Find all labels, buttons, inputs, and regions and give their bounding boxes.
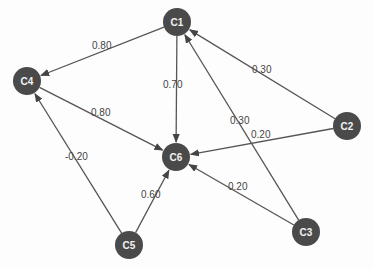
node-c5: C5 (115, 231, 143, 259)
node-label: C2 (341, 121, 354, 132)
edge-c1-to-c4 (41, 27, 164, 75)
node-label: C3 (300, 227, 313, 238)
edge-weight-label: 0.30 (230, 115, 250, 126)
node-c2: C2 (333, 112, 361, 140)
edge-weight-label: 0.60 (141, 189, 161, 200)
edge-c4-to-c6 (39, 87, 162, 150)
edge-labels-layer: 0.800.700.300.300.800.20-0.200.600.20 (65, 40, 272, 200)
edge-c3-to-c6 (189, 164, 294, 225)
edge-weight-label: 0.80 (91, 107, 111, 118)
node-label: C1 (171, 17, 184, 28)
edge-weight-label: 0.30 (252, 64, 272, 75)
graph-svg: 0.800.700.300.300.800.20-0.200.600.20 C1… (0, 0, 374, 269)
edges-layer (35, 27, 335, 233)
edge-c5-to-c6 (136, 170, 169, 232)
edge-weight-label: 0.70 (163, 79, 183, 90)
edge-weight-label: 0.20 (228, 181, 248, 192)
node-label: C4 (21, 76, 34, 87)
edge-weight-label: 0.20 (251, 129, 271, 140)
edge-c3-to-c1 (185, 35, 299, 220)
edge-weight-label: -0.20 (65, 151, 88, 162)
node-c6: C6 (162, 143, 190, 171)
node-c3: C3 (292, 218, 320, 246)
edge-weight-label: 0.80 (92, 40, 112, 51)
node-c1: C1 (163, 8, 191, 36)
diagram-canvas: 0.800.700.300.300.800.20-0.200.600.20 C1… (0, 0, 374, 269)
node-c4: C4 (13, 67, 41, 95)
node-label: C6 (170, 152, 183, 163)
node-label: C5 (123, 240, 136, 251)
